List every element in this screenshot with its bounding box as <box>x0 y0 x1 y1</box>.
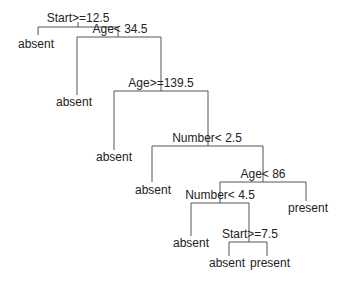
split-label-age-86: Age< 86 <box>240 168 285 180</box>
decision-tree-diagram: Start>=12.5 Age< 34.5 Age>=139.5 Number<… <box>0 0 347 282</box>
leaf-label: absent <box>96 151 132 163</box>
split-label-number-4-5: Number< 4.5 <box>185 189 255 201</box>
leaf-label: absent <box>135 184 171 196</box>
split-label-age-34-5: Age< 34.5 <box>92 23 147 35</box>
leaf-label: present <box>288 202 328 214</box>
edge-n7 <box>229 242 267 256</box>
split-label-start-7-5: Start>=7.5 <box>222 228 278 240</box>
leaf-label: absent <box>18 38 54 50</box>
leaf-label: absent <box>173 237 209 249</box>
leaf-label: absent <box>56 96 92 108</box>
split-label-number-2-5: Number< 2.5 <box>172 132 242 144</box>
leaf-label: present <box>250 257 290 269</box>
split-label-age-139-5: Age>=139.5 <box>128 77 193 89</box>
leaf-label: absent <box>209 257 245 269</box>
